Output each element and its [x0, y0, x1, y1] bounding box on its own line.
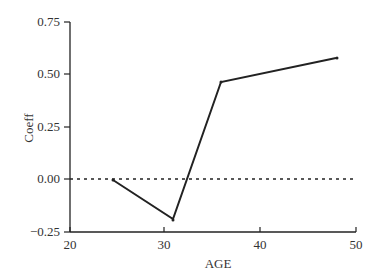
data-point [172, 219, 175, 222]
data-point [336, 57, 339, 60]
y-tick-label: 0.75 [37, 14, 60, 29]
x-ticks [70, 227, 356, 232]
x-tick-label: 50 [350, 237, 363, 252]
x-tick-label: 30 [158, 237, 171, 252]
y-tick-label: 0.50 [37, 66, 60, 81]
y-tick-label: −0.25 [30, 224, 60, 239]
line-chart: 0.75 0.50 0.25 0.00 −0.25 20 30 40 50 AG… [0, 0, 381, 280]
coeff-series-line [113, 58, 336, 219]
y-ticks [64, 22, 70, 232]
x-tick-label: 40 [254, 237, 267, 252]
x-tick-label: 20 [64, 237, 77, 252]
data-point [112, 179, 115, 182]
data-point [220, 81, 223, 84]
x-axis-label: AGE [205, 256, 232, 271]
y-axis-label: Coeff [21, 113, 36, 143]
y-tick-label: 0.00 [37, 171, 60, 186]
x-tick-labels: 20 30 40 50 [64, 237, 363, 252]
y-tick-label: 0.25 [37, 119, 60, 134]
